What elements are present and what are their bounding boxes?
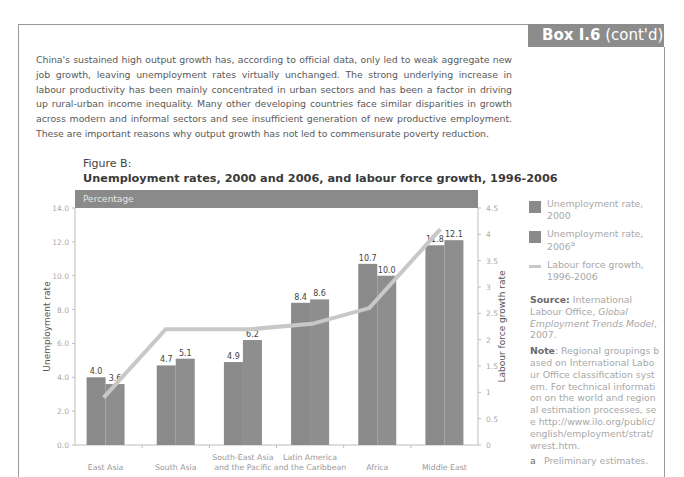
- y-axis-title-left: Unemployment rate: [42, 281, 52, 372]
- bar-value-label: 10.0: [378, 266, 396, 275]
- regional-note: Note: Regional groupings based on Intern…: [530, 345, 660, 451]
- x-category-label: Middle East: [422, 463, 467, 472]
- y-tick-label-left: 10.0: [52, 272, 69, 281]
- y-tick-label-left: 14.0: [52, 204, 69, 213]
- y-tick-label-left: 4.0: [57, 373, 69, 382]
- legend-swatch-bar-2000: [529, 201, 541, 213]
- footnote-text: Preliminary estimates.: [544, 455, 648, 466]
- x-category-label: South Asia: [155, 463, 197, 472]
- y-tick-label-right: 1: [486, 388, 491, 397]
- x-category-label: and the Caribbean: [274, 463, 346, 472]
- bar-2000: [224, 362, 243, 445]
- legend-swatch-line: [529, 265, 541, 268]
- y-tick-label-right: 2: [486, 336, 491, 345]
- bar-2000: [157, 365, 176, 445]
- bar-2000: [358, 264, 377, 445]
- legend-footnote-marker: a: [571, 240, 575, 248]
- legend-swatch-bar-2006: [529, 231, 541, 243]
- x-category-label: Africa: [366, 463, 388, 472]
- x-category-label: South-East Asia: [212, 453, 273, 462]
- footnote-marker: a: [530, 455, 536, 467]
- y-tick-label-left: 8.0: [57, 306, 69, 315]
- legend-item-labour-force-growth: Labour force growth, 1996-2006: [527, 259, 667, 283]
- y-tick-label-left: 0.0: [57, 441, 69, 450]
- y-tick-label-right: 3.5: [486, 257, 498, 266]
- x-category-label: East Asia: [88, 463, 124, 472]
- bar-value-label: 10.7: [359, 254, 377, 263]
- y-tick-label-left: 6.0: [57, 339, 69, 348]
- legend-item-unemployment-2000: Unemployment rate, 2000: [527, 198, 667, 222]
- legend-label: Unemployment rate, 2000: [547, 198, 643, 221]
- bar-value-label: 4.9: [227, 352, 240, 361]
- y-tick-label-right: 0.5: [486, 415, 498, 424]
- y-tick-label-right: 0: [486, 441, 491, 450]
- y-tick-label-left: 12.0: [52, 238, 69, 247]
- chart-notes: Source: International Labour Office, Glo…: [530, 294, 660, 467]
- bar-2006: [444, 240, 463, 445]
- bar-value-label: 4.7: [160, 355, 173, 364]
- source-note: Source: International Labour Office, Glo…: [530, 294, 660, 341]
- bar-2006: [243, 340, 262, 445]
- note-label: Note: [530, 345, 555, 356]
- legend-label: Unemployment rate, 2006: [547, 228, 643, 253]
- y-tick-label-right: 4.5: [486, 204, 498, 213]
- note-text: : Regional groupings based on Internatio…: [530, 345, 659, 450]
- bar-2006: [377, 276, 396, 445]
- x-category-label: Latin America: [283, 453, 337, 462]
- bar-value-label: 6.2: [246, 330, 259, 339]
- bar-2000: [425, 245, 444, 445]
- chart-legend: Unemployment rate, 2000 Unemployment rat…: [527, 198, 667, 289]
- bar-value-label: 8.4: [294, 293, 307, 302]
- x-category-label: and the Pacific: [214, 463, 271, 472]
- bar-value-label: 8.6: [313, 289, 326, 298]
- y-tick-label-left: 2.0: [57, 407, 69, 416]
- bar-2006: [176, 359, 195, 445]
- bar-value-label: 12.1: [445, 230, 463, 239]
- legend-item-unemployment-2006: Unemployment rate, 2006a: [527, 228, 667, 254]
- y-tick-label-right: 4: [486, 230, 491, 239]
- bar-value-label: 4.0: [90, 367, 103, 376]
- bar-value-label: 5.1: [179, 349, 192, 358]
- source-label: Source:: [530, 294, 570, 305]
- bar-2000: [87, 377, 106, 445]
- legend-label: Labour force growth, 1996-2006: [547, 259, 644, 282]
- footnote: aPreliminary estimates.: [530, 455, 660, 467]
- y-tick-label-right: 3: [486, 283, 491, 292]
- y-axis-title-right: Labour force growth rate: [497, 270, 507, 382]
